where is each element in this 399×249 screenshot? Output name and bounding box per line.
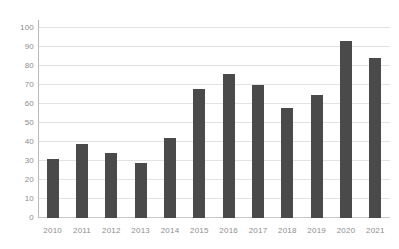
y-axis-tick-label: 70 bbox=[0, 81, 34, 89]
y-axis-tick-label: 100 bbox=[0, 24, 34, 32]
x-axis-tick-labels: 2010201120122013201420152016201720182019… bbox=[38, 226, 390, 240]
bar bbox=[47, 159, 59, 218]
y-axis-tick-label: 30 bbox=[0, 157, 34, 165]
bar bbox=[105, 153, 117, 218]
bar bbox=[252, 85, 264, 218]
bar bbox=[193, 89, 205, 218]
bar-chart: 0102030405060708090100 20102011201220132… bbox=[0, 0, 399, 249]
y-axis-tick-label: 90 bbox=[0, 43, 34, 51]
y-axis-tick-label: 20 bbox=[0, 176, 34, 184]
y-axis-tick-label: 80 bbox=[0, 62, 34, 70]
y-axis-tick-label: 40 bbox=[0, 138, 34, 146]
bar bbox=[369, 58, 381, 218]
bars-layer bbox=[38, 28, 390, 218]
bar bbox=[281, 108, 293, 218]
y-axis-tick-label: 50 bbox=[0, 119, 34, 127]
x-axis-tick-label: 2021 bbox=[355, 226, 395, 235]
bar bbox=[164, 138, 176, 218]
y-axis-tick-label: 60 bbox=[0, 100, 34, 108]
y-axis-tick-label: 0 bbox=[0, 214, 34, 222]
bar bbox=[340, 41, 352, 218]
bar bbox=[135, 163, 147, 218]
y-axis-tick-label: 10 bbox=[0, 195, 34, 203]
bar bbox=[311, 95, 323, 219]
bar bbox=[76, 144, 88, 218]
y-axis-tick-labels: 0102030405060708090100 bbox=[0, 0, 34, 249]
bar bbox=[223, 74, 235, 218]
